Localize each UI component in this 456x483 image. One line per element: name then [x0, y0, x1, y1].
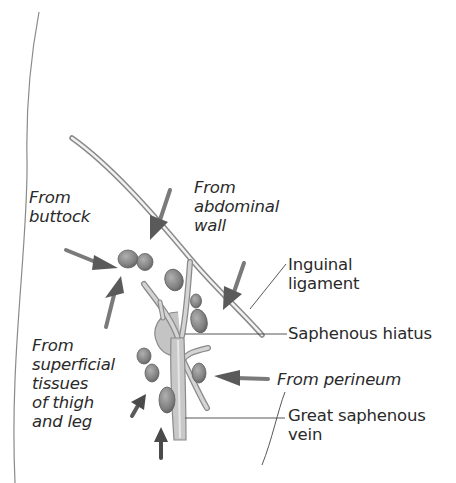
arrow-from-perineum	[214, 370, 268, 386]
lymph-node	[192, 363, 206, 383]
lymph-node	[137, 348, 151, 364]
lymph-node	[118, 250, 138, 268]
arrow-from-leg	[154, 427, 168, 458]
arrow-from-buttock	[66, 250, 118, 270]
lymph-node	[188, 307, 210, 334]
label-from-buttock: From buttock	[29, 188, 90, 226]
great-saphenous-vein	[171, 338, 186, 440]
leader-from-perineum	[262, 392, 285, 465]
label-saphenous-hiatus: Saphenous hiatus	[288, 324, 432, 343]
label-from-superficial-tissues: From superficial tissues of thigh and le…	[32, 336, 115, 431]
lymph-node	[191, 294, 202, 308]
leader-inguinal-ligament	[250, 264, 286, 309]
inguinal-ligament	[72, 138, 262, 335]
label-inguinal-ligament: Inguinal ligament	[288, 255, 359, 293]
lymph-node	[137, 254, 153, 271]
arrow-from-thigh-upper	[105, 276, 124, 327]
label-from-perineum: From perineum	[277, 370, 401, 389]
lymph-node	[159, 387, 175, 413]
lymph-node	[162, 267, 186, 294]
arrow-from-thigh-lower	[131, 394, 146, 416]
label-from-abdominal-wall: From abdominal wall	[194, 178, 279, 235]
lymph-node	[145, 364, 159, 382]
label-great-saphenous-vein: Great saphenous vein	[288, 406, 426, 444]
